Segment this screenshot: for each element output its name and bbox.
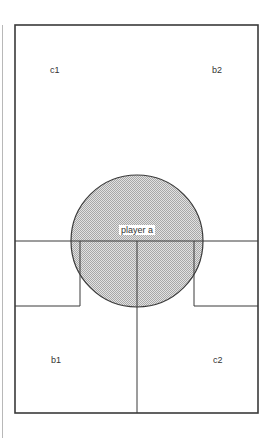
right-box-line: [194, 241, 258, 306]
region-label-b1: b1: [51, 355, 61, 365]
region-label-c2: c2: [213, 355, 223, 365]
court-diagram: [0, 0, 273, 440]
player-label: player a: [119, 225, 155, 235]
region-label-b2: b2: [212, 65, 222, 75]
left-box-line: [15, 241, 80, 306]
region-label-c1: c1: [50, 65, 60, 75]
